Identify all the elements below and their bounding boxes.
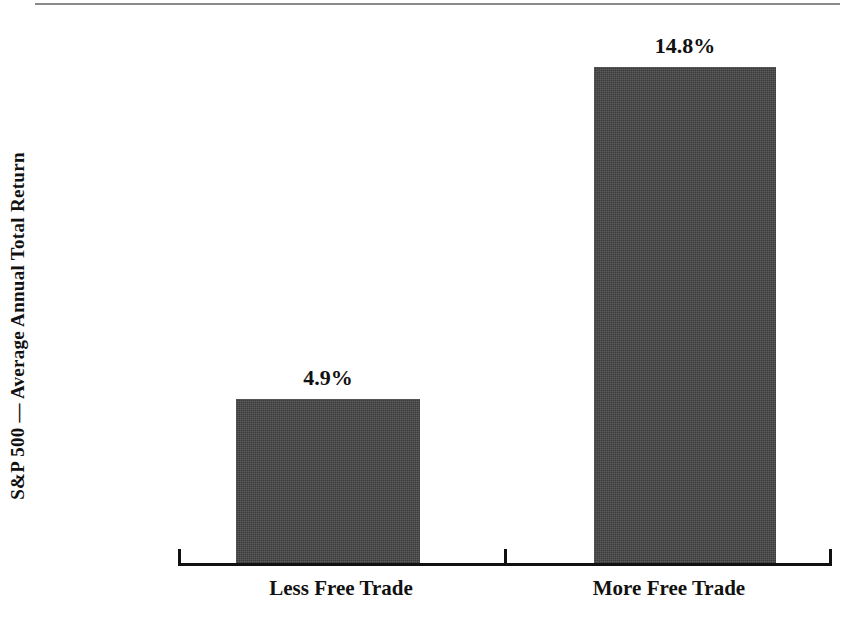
x-axis-tick-left xyxy=(178,549,181,566)
bar-more-free-trade xyxy=(594,67,776,564)
x-axis-label-less-free-trade: Less Free Trade xyxy=(178,576,504,601)
x-axis-label-more-free-trade: More Free Trade xyxy=(506,576,832,601)
bar-value-label-less-free-trade: 4.9% xyxy=(236,365,420,391)
plot-area: 4.9% 14.8% Less Free Trade More Free Tra… xyxy=(0,0,860,629)
chart-figure: S&P 500 — Average Annual Total Return 4.… xyxy=(0,0,860,629)
bar-value-label-more-free-trade: 14.8% xyxy=(594,33,776,59)
x-axis-tick-right xyxy=(829,549,832,566)
x-axis-tick-middle xyxy=(504,549,507,564)
bar-less-free-trade xyxy=(236,399,420,564)
